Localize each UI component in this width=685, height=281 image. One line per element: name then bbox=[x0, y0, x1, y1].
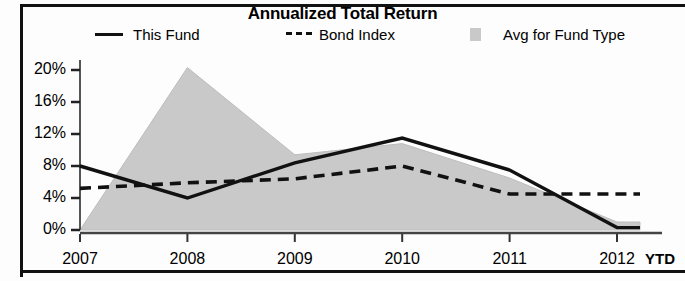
y-axis-tick-label: 20% bbox=[0, 60, 66, 78]
x-axis-tick-label: 2009 bbox=[277, 250, 313, 268]
chart-canvas bbox=[0, 0, 685, 281]
x-axis-tick-label: 2008 bbox=[170, 250, 206, 268]
x-axis-ytd-note: YTD bbox=[645, 250, 675, 267]
chart-root: Annualized Total Return This Fund Bond I… bbox=[0, 0, 685, 281]
y-axis-tick-label: 12% bbox=[0, 124, 66, 142]
x-axis-tick-label: 2010 bbox=[384, 250, 420, 268]
y-axis-tick-label: 8% bbox=[0, 156, 66, 174]
x-axis-tick-label: 2012 bbox=[599, 250, 635, 268]
x-axis-tick-label: 2011 bbox=[492, 250, 526, 268]
x-axis-tick-label: 2007 bbox=[62, 250, 98, 268]
y-axis-tick-label: 16% bbox=[0, 92, 66, 110]
y-axis-tick-label: 4% bbox=[0, 188, 66, 206]
y-axis-tick-label: 0% bbox=[0, 220, 66, 238]
plot-area: 0%4%8%12%16%20% 200720082009201020112012… bbox=[0, 0, 685, 281]
